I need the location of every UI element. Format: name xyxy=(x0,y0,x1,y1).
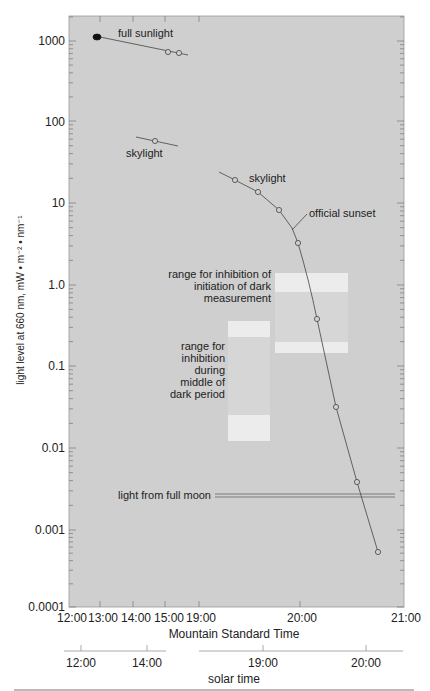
y-tick-labels: 1000 100 10 1.0 0.1 0.01 0.001 0.0001 xyxy=(28,34,65,614)
svg-text:13:00: 13:00 xyxy=(88,611,118,625)
label-full-sunlight: full sunlight xyxy=(118,27,173,39)
label-full-moon: light from full moon xyxy=(118,489,211,501)
svg-text:1.0: 1.0 xyxy=(48,278,65,292)
plot-area xyxy=(69,16,404,607)
svg-text:0.001: 0.001 xyxy=(35,523,65,537)
svg-text:middle of: middle of xyxy=(180,376,226,388)
svg-text:inhibition: inhibition xyxy=(182,352,225,364)
band-initiation xyxy=(275,273,348,353)
band-middle xyxy=(228,321,270,441)
svg-text:measurement: measurement xyxy=(204,292,271,304)
y-axis-label: light level at 660 nm, mW • m⁻² • nm⁻¹ xyxy=(15,215,26,385)
svg-text:20:00: 20:00 xyxy=(287,611,317,625)
label-official-sunset: official sunset xyxy=(309,207,375,219)
light-level-chart: 1000 100 10 1.0 0.1 0.01 0.001 0.0001 li… xyxy=(0,0,430,691)
svg-text:100: 100 xyxy=(45,115,65,129)
svg-text:range for: range for xyxy=(181,340,225,352)
x-axis-label-solar: solar time xyxy=(208,672,260,686)
svg-text:19:00: 19:00 xyxy=(186,611,216,625)
label-skylight-1: skylight xyxy=(126,147,163,159)
svg-text:dark period: dark period xyxy=(170,388,225,400)
label-skylight-2: skylight xyxy=(249,172,286,184)
svg-text:21:00: 21:00 xyxy=(391,611,421,625)
svg-text:1000: 1000 xyxy=(38,34,65,48)
svg-text:during: during xyxy=(194,364,225,376)
x-tick-labels-solar: 12:00 14:00 19:00 20:00 xyxy=(66,656,381,670)
svg-text:12:00: 12:00 xyxy=(57,611,87,625)
svg-text:0.01: 0.01 xyxy=(42,441,66,455)
svg-text:0.1: 0.1 xyxy=(48,359,65,373)
solar-time-axis xyxy=(64,645,403,651)
svg-text:initiation of dark: initiation of dark xyxy=(194,280,272,292)
svg-text:10: 10 xyxy=(52,196,66,210)
svg-text:14:00: 14:00 xyxy=(121,611,151,625)
x-tick-labels-mst: 12:00 13:00 14:00 15:00 19:00 20:00 21:0… xyxy=(57,611,421,625)
svg-text:20:00: 20:00 xyxy=(351,656,381,670)
svg-text:14:00: 14:00 xyxy=(132,656,162,670)
x-axis-label-mst: Mountain Standard Time xyxy=(169,627,300,641)
svg-text:15:00: 15:00 xyxy=(154,611,184,625)
svg-text:19:00: 19:00 xyxy=(248,656,278,670)
svg-text:range for inhibition of: range for inhibition of xyxy=(168,268,272,280)
svg-text:12:00: 12:00 xyxy=(66,656,96,670)
